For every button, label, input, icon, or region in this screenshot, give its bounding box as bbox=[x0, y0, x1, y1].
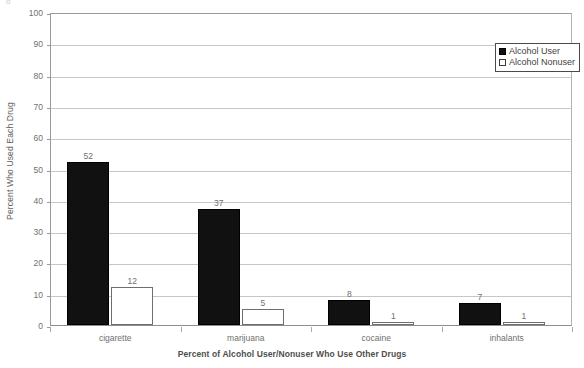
chart-legend: Alcohol User Alcohol Nonuser bbox=[495, 43, 580, 72]
legend-item-label: Alcohol Nonuser bbox=[509, 57, 575, 68]
bar-value-label: 5 bbox=[260, 298, 265, 308]
scan-artifact-speck: o bbox=[6, 0, 10, 6]
gridline bbox=[51, 139, 571, 140]
y-axis-tick-label: 60 bbox=[3, 133, 43, 143]
gridline bbox=[51, 77, 571, 78]
y-axis-tick-mark bbox=[47, 45, 51, 46]
bar-inhalants-nonuser: 1 bbox=[503, 322, 545, 325]
y-axis-tick-label: 50 bbox=[3, 165, 43, 175]
y-axis-tick-mark bbox=[47, 139, 51, 140]
legend-item: Alcohol Nonuser bbox=[499, 57, 575, 68]
bar-chart-figure: o · Percent Who Used Each Drug 521237581… bbox=[0, 0, 584, 368]
y-axis-tick-mark bbox=[47, 264, 51, 265]
x-axis-title: Percent of Alcohol User/Nonuser Who Use … bbox=[0, 349, 584, 359]
y-axis-tick-label: 30 bbox=[3, 227, 43, 237]
bar-value-label: 8 bbox=[347, 289, 352, 299]
y-axis-tick-mark bbox=[47, 202, 51, 203]
x-axis-tick-label-cigarette: cigarette bbox=[99, 333, 132, 343]
y-axis-tick-label: 10 bbox=[3, 290, 43, 300]
bar-cigarette-nonuser: 12 bbox=[111, 287, 153, 325]
gridline bbox=[51, 202, 571, 203]
bar-value-label: 12 bbox=[128, 276, 137, 286]
bar-value-label: 1 bbox=[391, 311, 396, 321]
legend-swatch-icon bbox=[499, 48, 506, 55]
bar-cigarette-user: 52 bbox=[67, 162, 109, 325]
bar-value-label: 52 bbox=[84, 151, 93, 161]
x-axis-tick-mark bbox=[311, 327, 312, 332]
legend-item-label: Alcohol User bbox=[509, 46, 560, 57]
bar-marijuana-user: 37 bbox=[198, 209, 240, 325]
y-axis-tick-label: 40 bbox=[3, 196, 43, 206]
bar-cocaine-nonuser: 1 bbox=[372, 322, 414, 325]
y-axis-tick-mark bbox=[47, 233, 51, 234]
y-axis-tick-label: 80 bbox=[3, 71, 43, 81]
x-axis-tick-label-inhalants: inhalants bbox=[490, 333, 524, 343]
bar-value-label: 37 bbox=[214, 198, 223, 208]
legend-swatch-icon bbox=[499, 59, 506, 66]
gridline bbox=[51, 45, 571, 46]
y-axis-tick-label: 90 bbox=[3, 39, 43, 49]
x-axis-tick-label-cocaine: cocaine bbox=[362, 333, 391, 343]
legend-item: Alcohol User bbox=[499, 46, 575, 57]
y-axis-tick-label: 70 bbox=[3, 102, 43, 112]
gridline bbox=[51, 171, 571, 172]
y-axis-tick-label: 100 bbox=[3, 8, 43, 18]
x-axis-tick-label-marijuana: marijuana bbox=[227, 333, 264, 343]
plot-area: 52123758171 Alcohol User Alcohol Nonuser bbox=[50, 13, 572, 326]
bar-marijuana-nonuser: 5 bbox=[242, 309, 284, 325]
y-axis-tick-mark bbox=[47, 77, 51, 78]
x-axis-tick-mark bbox=[181, 327, 182, 332]
gridline bbox=[51, 108, 571, 109]
bar-inhalants-user: 7 bbox=[459, 303, 501, 325]
gridline bbox=[51, 264, 571, 265]
bar-cocaine-user: 8 bbox=[328, 300, 370, 325]
y-axis-tick-label: 20 bbox=[3, 258, 43, 268]
x-axis-tick-mark bbox=[572, 327, 573, 332]
y-axis-tick-mark bbox=[47, 296, 51, 297]
y-axis-tick-label: 0 bbox=[3, 321, 43, 331]
y-axis-tick-mark bbox=[47, 14, 51, 15]
y-axis-tick-mark bbox=[47, 171, 51, 172]
x-axis-tick-mark bbox=[50, 327, 51, 332]
bar-value-label: 1 bbox=[521, 311, 526, 321]
x-axis-tick-mark bbox=[442, 327, 443, 332]
bar-value-label: 7 bbox=[477, 292, 482, 302]
y-axis-tick-mark bbox=[47, 108, 51, 109]
gridline bbox=[51, 233, 571, 234]
